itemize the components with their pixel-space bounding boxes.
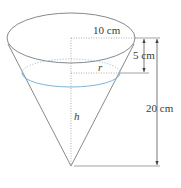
total-height-arrowhead-top [155, 39, 158, 43]
water-height-label: h [74, 110, 80, 122]
water-surface-front [22, 73, 120, 87]
water-radius-label: r [98, 61, 103, 73]
total-height-label: 20 cm [146, 102, 174, 114]
cone-left-side [8, 44, 71, 166]
top-radius-label: 10 cm [93, 24, 121, 36]
depth-gap-arrowhead-bottom [142, 68, 145, 72]
cone-diagram: 10 cm 5 cm r h 20 cm [0, 0, 181, 188]
depth-gap-arrowhead-top [142, 39, 145, 43]
total-height-arrowhead-bottom [155, 161, 158, 165]
depth-gap-label: 5 cm [133, 49, 155, 61]
